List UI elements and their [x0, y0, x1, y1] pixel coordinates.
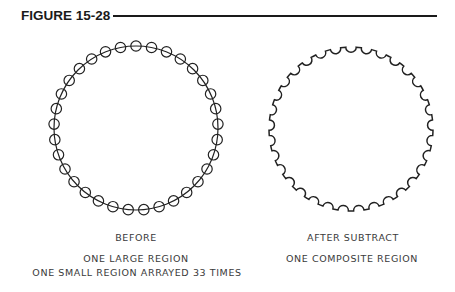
before-description-line-2: ONE SMALL REGION ARRAYED 33 TIMES: [32, 267, 241, 278]
large-region-circle: [54, 46, 218, 210]
after-label: AFTER SUBTRACT: [307, 232, 399, 243]
composite-region-outline: [269, 47, 433, 211]
before-label: BEFORE: [115, 232, 157, 243]
before-drawing: [49, 41, 223, 215]
figure-drawing: [0, 0, 455, 292]
before-description-line-1: ONE LARGE REGION: [83, 253, 189, 264]
after-description-line-1: ONE COMPOSITE REGION: [286, 253, 418, 264]
after-drawing: [269, 47, 433, 211]
